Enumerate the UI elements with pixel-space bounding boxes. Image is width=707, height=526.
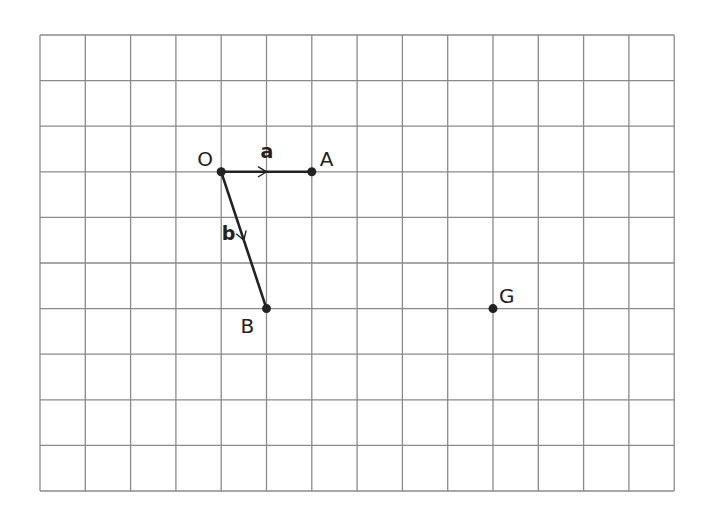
point-b-label: B bbox=[241, 314, 255, 338]
point-a-dot bbox=[307, 167, 316, 176]
grid bbox=[40, 35, 674, 491]
vector-b-label: b bbox=[222, 222, 236, 244]
point-g-dot bbox=[489, 304, 498, 313]
point-o-label: O bbox=[197, 147, 213, 171]
vector-grid-diagram: ab OABG bbox=[0, 0, 707, 526]
vector-a-label: a bbox=[261, 140, 274, 162]
point-g-label: G bbox=[499, 284, 515, 308]
point-b-dot bbox=[262, 304, 271, 313]
point-o-dot bbox=[217, 167, 226, 176]
point-a-label: A bbox=[320, 147, 334, 171]
